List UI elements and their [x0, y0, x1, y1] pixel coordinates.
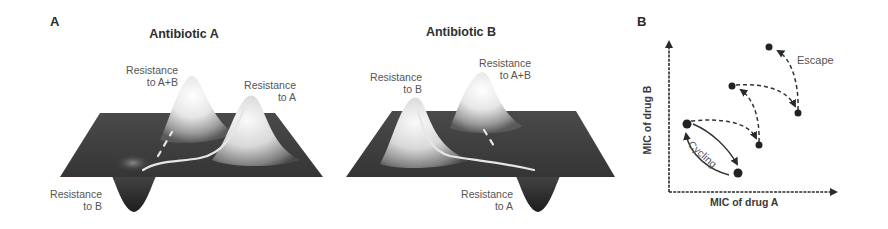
label-resistance-a-b: Resistance to A+B: [479, 57, 531, 81]
label-line: Resistance: [461, 188, 513, 200]
valley-resistance-to-a: [516, 176, 560, 212]
label-resistance-a: Resistance to A: [244, 79, 296, 103]
label-resistance-b: Resistance to B: [50, 188, 102, 212]
label-resistance-b: Resistance to B: [370, 71, 422, 95]
escape-arrow-2b: [778, 51, 798, 110]
panel-b-letter: B: [637, 14, 646, 29]
state-point: [683, 120, 692, 129]
escape-arrow-1b: [741, 90, 759, 142]
state-point: [729, 83, 736, 90]
label-line: Resistance: [50, 188, 102, 200]
label-resistance-a: Resistance to A: [461, 188, 513, 212]
title-antibiotic-a: Antibiotic A: [149, 27, 219, 41]
escape-arrow-1a: [691, 120, 756, 138]
label-line: Resistance: [126, 64, 178, 76]
label-line: to A+B: [479, 69, 531, 81]
peak-resistance-to-a-b: [450, 72, 522, 133]
state-point: [734, 169, 743, 178]
escape-arrow-2a: [736, 85, 795, 106]
x-axis-label: MIC of drug A: [710, 196, 778, 208]
label-line: to A: [244, 91, 296, 103]
label-line: to A+B: [126, 76, 178, 88]
label-line: to B: [370, 83, 422, 95]
y-axis-label: MIC of drug B: [641, 86, 653, 155]
valley-resistance-to-b: [112, 176, 156, 212]
state-point: [795, 110, 802, 117]
state-point: [766, 44, 773, 51]
title-antibiotic-b: Antibiotic B: [426, 25, 496, 39]
state-point: [756, 142, 763, 149]
label-line: to B: [50, 200, 102, 212]
label-line: Resistance: [370, 71, 422, 83]
label-line: Resistance: [244, 79, 296, 91]
label-line: Resistance: [479, 57, 531, 69]
label-resistance-a-b: Resistance to A+B: [126, 64, 178, 88]
escape-annotation: Escape: [797, 54, 834, 66]
label-line: to A: [461, 200, 513, 212]
